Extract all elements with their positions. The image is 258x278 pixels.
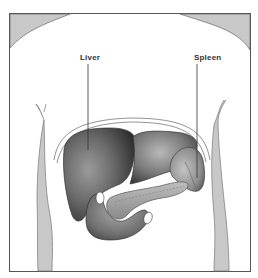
anatomy-figure: Liver Spleen	[0, 0, 258, 278]
duodenum-opening-upper	[96, 192, 104, 204]
spleen-label: Spleen	[194, 53, 221, 62]
liver-label: Liver	[80, 53, 100, 62]
anatomy-illustration	[0, 0, 258, 278]
